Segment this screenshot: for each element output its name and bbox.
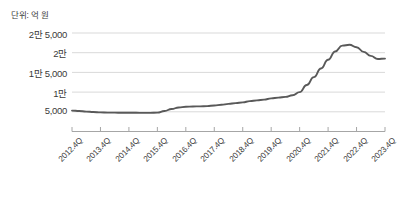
x-axis-ticks <box>72 127 385 132</box>
line-chart: 단위: 억 원 5,0001만1만 5,0002만2만 5,000 2012.4… <box>0 0 401 197</box>
data-series-line <box>72 45 385 113</box>
y-axis-tick-label: 1만 5,000 <box>5 66 67 80</box>
y-axis-tick-label: 2만 5,000 <box>5 27 67 41</box>
y-axis-tick-label: 1만 <box>5 86 67 100</box>
gridlines <box>72 33 385 112</box>
y-axis-tick-label: 2만 <box>5 46 67 60</box>
y-axis-tick-label: 5,000 <box>5 105 67 116</box>
